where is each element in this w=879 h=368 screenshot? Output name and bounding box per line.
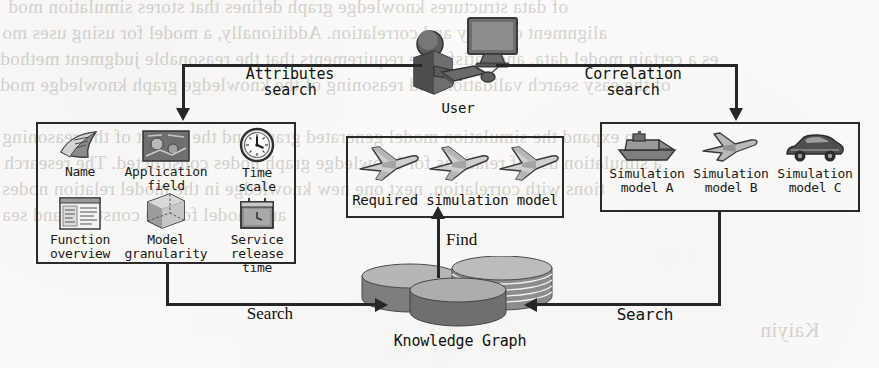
search-right-label: Search — [590, 307, 700, 323]
wireframe-cube-icon — [118, 194, 214, 230]
required-model-icon-row — [356, 142, 562, 186]
attributes-search-line-v — [182, 64, 185, 112]
attribute-label: Name — [44, 165, 116, 179]
attribute-item-time-scale: Time scale — [224, 127, 290, 194]
car-icon — [774, 128, 856, 164]
search-left-arrowhead — [375, 298, 388, 312]
clock-icon — [224, 127, 290, 163]
attribute-item-name: Name — [44, 128, 116, 179]
ship-icon — [606, 128, 688, 164]
airplane-icon — [426, 142, 492, 186]
airplane-icon — [690, 128, 772, 164]
find-arrowhead — [431, 206, 445, 219]
correlation-item-model-b: Simulation model B — [690, 128, 772, 195]
correlation-search-label: Correlation search — [553, 66, 713, 98]
correlation-label: Simulation model C — [774, 167, 856, 195]
airplane-icon — [356, 142, 422, 186]
bleed-through-text: Kaiyin — [760, 318, 820, 343]
attribute-label: Model granularity — [118, 233, 214, 261]
knowledge-graph-label: Knowledge Graph — [375, 332, 545, 350]
document-window-icon — [44, 196, 116, 230]
attribute-label: Application field — [118, 165, 214, 193]
search-left-label: Search — [215, 306, 325, 322]
correlation-search-arrowhead — [729, 108, 743, 121]
required-model-caption: Required simulation model — [350, 192, 560, 208]
attributes-search-label: Attributes search — [215, 66, 365, 98]
correlation-label: Simulation model A — [606, 167, 688, 195]
correlation-item-model-a: Simulation model A — [606, 128, 688, 195]
find-line — [437, 216, 440, 278]
calendar-icon — [212, 196, 302, 230]
attributes-search-arrowhead — [176, 108, 190, 121]
attribute-label: Service release time — [212, 233, 302, 275]
search-right-arrowhead — [524, 298, 537, 312]
newspaper-icon — [44, 128, 116, 162]
database-stack-icon — [352, 256, 562, 330]
user-label: User — [428, 100, 488, 116]
application-field-icon — [118, 128, 214, 162]
correlation-search-line-v — [735, 64, 738, 112]
attribute-label: Time scale — [224, 166, 290, 194]
airplane-icon — [496, 142, 562, 186]
attribute-item-application-field: Application field — [118, 128, 214, 193]
correlation-label: Simulation model B — [690, 167, 772, 195]
user-at-computer-icon — [404, 10, 544, 110]
attribute-item-service-release-time: Service release time — [212, 196, 302, 275]
find-label: Find — [446, 232, 506, 248]
attribute-item-model-granularity: Model granularity — [118, 194, 214, 261]
search-right-line-v — [718, 212, 721, 306]
attribute-item-function-overview: Function overview — [44, 196, 116, 261]
search-left-line-v — [166, 264, 169, 306]
correlation-item-model-c: Simulation model C — [774, 128, 856, 195]
figure-canvas: of data structures knowledge graph defin… — [0, 0, 879, 368]
attribute-label: Function overview — [44, 233, 116, 261]
